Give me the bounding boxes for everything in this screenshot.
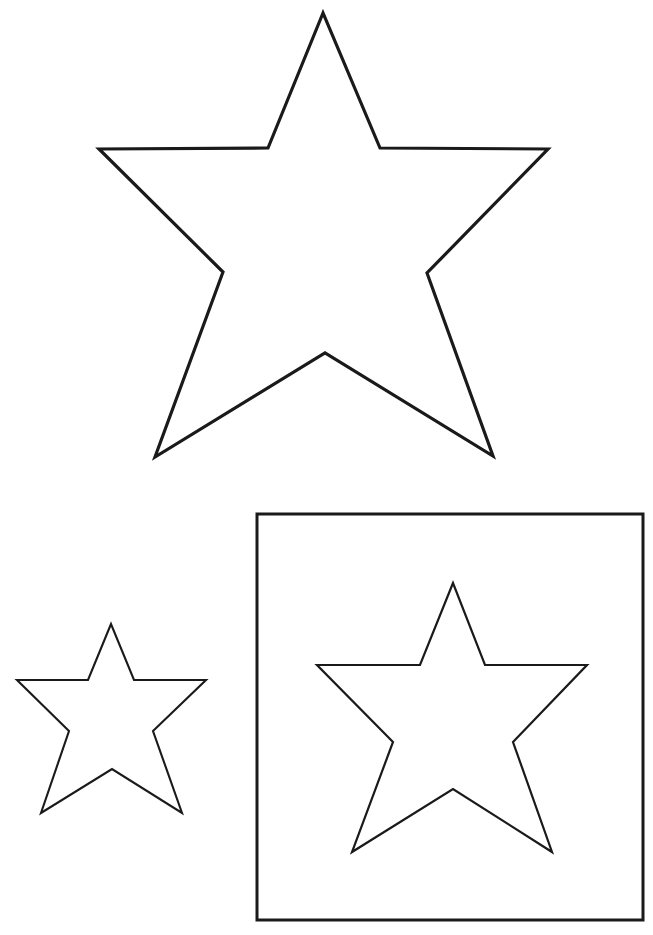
square-with-star-group	[257, 514, 643, 920]
worksheet-canvas	[0, 0, 653, 935]
star-shapes-figure	[0, 0, 653, 935]
